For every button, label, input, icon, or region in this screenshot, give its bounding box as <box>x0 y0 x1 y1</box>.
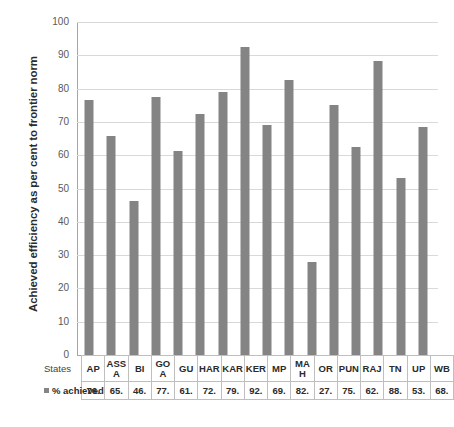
category-cell: BI <box>128 356 151 382</box>
bar-cell <box>100 22 122 355</box>
bar-cell <box>345 22 367 355</box>
bar-OR <box>307 262 316 355</box>
bar-AP <box>85 100 94 355</box>
bar-TN <box>374 61 383 355</box>
bar-RAJ <box>352 147 361 355</box>
bar-GU <box>174 151 183 355</box>
bar-WB <box>418 127 427 355</box>
value-cell: 53. <box>407 382 430 400</box>
category-cell: GOA <box>151 356 174 382</box>
value-cell: 88. <box>384 382 407 400</box>
bar-cell <box>212 22 234 355</box>
bar-cell <box>301 22 323 355</box>
value-cell: 77. <box>151 382 174 400</box>
bar-series <box>78 22 434 355</box>
table-row-categories: States APASSABIGOAGUHARKARKERMPMAHORPUNR… <box>44 356 454 382</box>
value-cell: 61. <box>175 382 198 400</box>
bar-cell <box>390 22 412 355</box>
category-cell: MAH <box>291 356 314 382</box>
y-tick-20: 20 <box>39 283 69 293</box>
bar-cell <box>412 22 434 355</box>
bar-cell <box>256 22 278 355</box>
bar-HAR <box>196 114 205 355</box>
value-cell: 75. <box>337 382 360 400</box>
y-tick-10: 10 <box>39 317 69 327</box>
value-cell: 82. <box>291 382 314 400</box>
bar-KER <box>240 47 249 355</box>
category-cell: PUN <box>337 356 360 382</box>
table-row-values: % achieved 76.65.46.77.61.72.79.92.69.82… <box>44 382 454 400</box>
value-cell: 72. <box>198 382 221 400</box>
bar-cell <box>167 22 189 355</box>
y-tick-30: 30 <box>39 250 69 260</box>
value-cell: 69. <box>268 382 291 400</box>
bar-BI <box>129 201 138 356</box>
bar-ASS-A <box>107 136 116 355</box>
value-cell: 68. <box>430 382 453 400</box>
bar-MP <box>263 125 272 355</box>
value-cell: 65. <box>105 382 128 400</box>
y-tick-50: 50 <box>39 184 69 194</box>
y-axis-title: Achieved efficiency as per cent to front… <box>27 19 39 349</box>
y-tick-40: 40 <box>39 217 69 227</box>
category-cell: ASSA <box>105 356 128 382</box>
bar-cell <box>189 22 211 355</box>
y-tick-100: 100 <box>39 17 69 27</box>
bar-cell <box>278 22 300 355</box>
category-cell: RAJ <box>361 356 384 382</box>
value-cell: 92. <box>244 382 267 400</box>
category-cell: GU <box>175 356 198 382</box>
value-cell: 46. <box>128 382 151 400</box>
bar-UP <box>396 178 405 355</box>
bar-PUN <box>329 105 338 355</box>
category-cell: UP <box>407 356 430 382</box>
category-cell: OR <box>314 356 337 382</box>
bar-cell <box>145 22 167 355</box>
bar-cell <box>123 22 145 355</box>
y-tick-80: 80 <box>39 84 69 94</box>
value-cell: 62. <box>361 382 384 400</box>
bar-cell <box>234 22 256 355</box>
states-row-label: States <box>44 356 82 382</box>
category-cell: HAR <box>198 356 221 382</box>
legend-achieved: % achieved <box>44 382 82 400</box>
y-tick-90: 90 <box>39 50 69 60</box>
value-cell: 27. <box>314 382 337 400</box>
category-cell: KAR <box>221 356 244 382</box>
y-tick-70: 70 <box>39 117 69 127</box>
bar-GO-A <box>151 97 160 355</box>
legend-marker-icon <box>44 388 49 393</box>
category-cell: TN <box>384 356 407 382</box>
category-cell: KER <box>244 356 267 382</box>
bar-KAR <box>218 92 227 355</box>
bar-cell <box>78 22 100 355</box>
value-cell: 79. <box>221 382 244 400</box>
bar-cell <box>323 22 345 355</box>
category-cell: WB <box>430 356 453 382</box>
bar-MA-H <box>285 80 294 355</box>
y-tick-60: 60 <box>39 150 69 160</box>
category-cell: AP <box>82 356 105 382</box>
bar-cell <box>367 22 389 355</box>
data-table: States APASSABIGOAGUHARKARKERMPMAHORPUNR… <box>44 355 454 400</box>
category-cell: MP <box>268 356 291 382</box>
